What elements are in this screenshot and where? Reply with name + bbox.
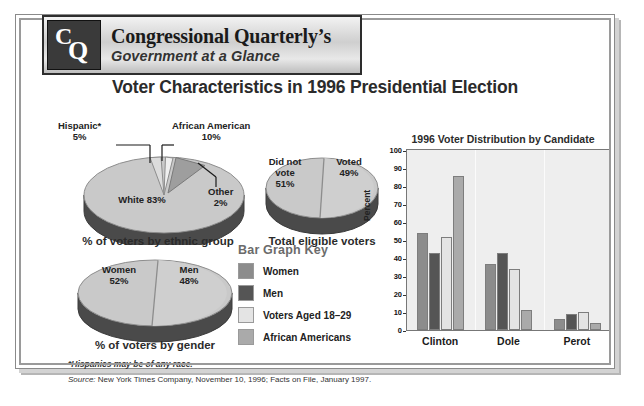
pie-label-hispanic: Hispanic* 5%: [58, 121, 101, 143]
y-tickmark-0: [403, 331, 406, 332]
footnote-source-text: New York Times Company, November 10, 199…: [96, 375, 372, 384]
y-tick-20: 20: [376, 290, 402, 299]
y-tick-60: 60: [376, 218, 402, 227]
key-swatch-men: [238, 285, 254, 301]
pie-label-voted-value: 49%: [339, 167, 358, 178]
key-label-voters-18-29: Voters Aged 18–29: [263, 310, 351, 321]
pie-label-did-not-vote-l1: Did not: [269, 156, 302, 167]
pie-label-did-not-vote-l2: vote: [275, 167, 295, 178]
pie-label-men-value: 48%: [179, 275, 198, 286]
y-tick-100: 100: [376, 146, 402, 155]
y-tick-30: 30: [376, 272, 402, 281]
bar-graph-key: Bar Graph Key Women Men Voters Aged 18–2…: [238, 243, 351, 350]
pie-label-african-american-value: 10%: [202, 131, 221, 142]
pie-label-women-value: 52%: [109, 275, 128, 286]
bar-perot-women: [554, 319, 565, 330]
y-tick-50: 50: [376, 236, 402, 245]
pie-label-women-l1: Women: [102, 264, 136, 275]
masthead-title: Congressional Quarterly’s: [111, 26, 331, 47]
bar-dole-african-americans: [521, 310, 532, 330]
masthead: C Q Congressional Quarterly’s Government…: [42, 15, 362, 75]
pie-label-hispanic-name: Hispanic*: [58, 120, 101, 131]
y-tick-0: 0: [376, 326, 402, 335]
pie-ethnic-svg: [64, 133, 264, 245]
pie-label-other-value: 2%: [214, 197, 228, 208]
bar-clinton-men: [429, 253, 440, 330]
bar-graph-key-title: Bar Graph Key: [238, 243, 351, 257]
bar-group-clinton: [417, 150, 465, 330]
y-tick-80: 80: [376, 182, 402, 191]
key-item-women: Women: [238, 262, 351, 280]
key-item-men: Men: [238, 284, 351, 302]
bar-chart-plot-area: [406, 149, 611, 331]
pie-gender-svg: [68, 243, 243, 351]
x-label-dole: Dole: [474, 335, 542, 347]
bar-chart-title: 1996 Voter Distribution by Candidate: [388, 133, 618, 145]
bar-group-dole: [485, 150, 533, 330]
pie-label-voted-l1: Voted: [336, 156, 362, 167]
footnote-source: Source: New York Times Company, November…: [68, 375, 371, 384]
footnote-asterisk: *Hispanics may be of any race.: [68, 359, 193, 369]
bar-group-perot: [554, 150, 602, 330]
y-tick-90: 90: [376, 164, 402, 173]
pie-caption-gender: % of voters by gender: [62, 339, 248, 351]
pie-label-did-not-vote-value: 51%: [275, 178, 294, 189]
cq-logo-icon: C Q: [47, 20, 101, 70]
key-swatch-women: [238, 263, 254, 279]
bar-perot-men: [566, 314, 577, 330]
bar-dole-voters-aged-18-29: [509, 269, 520, 330]
key-label-men: Men: [263, 288, 283, 299]
pie-chart-eligible: Did not vote 51% Voted 49% Total eligibl…: [258, 133, 386, 243]
grid-line-0: [475, 150, 476, 330]
bar-clinton-african-americans: [453, 176, 464, 330]
key-item-african-americans: African Americans: [238, 328, 351, 346]
poster-frame: C Q Congressional Quarterly’s Government…: [15, 14, 615, 369]
pie-chart-gender: Women 52% Men 48% % of voters by gender: [68, 243, 243, 348]
pie-label-men: Men 48%: [168, 265, 210, 287]
page-title: Voter Characteristics in 1996 Presidenti…: [16, 77, 614, 98]
y-tick-70: 70: [376, 200, 402, 209]
y-tick-10: 10: [376, 308, 402, 317]
pie-label-did-not-vote: Did not vote 51%: [262, 157, 308, 190]
x-label-perot: Perot: [543, 335, 611, 347]
bar-perot-voters-aged-18-29: [578, 312, 589, 330]
pie-label-voted: Voted 49%: [328, 157, 370, 179]
bar-dole-women: [485, 264, 496, 330]
pie-label-women: Women 52%: [94, 265, 144, 287]
grid-line-1: [544, 150, 545, 330]
pie-chart-ethnic: Hispanic* 5% African American 10% Other …: [64, 133, 264, 243]
bar-perot-african-americans: [590, 323, 601, 330]
pie-label-african-american-name: African American: [172, 120, 250, 131]
key-label-women: Women: [263, 266, 299, 277]
pie-label-african-american: African American 10%: [172, 121, 250, 143]
key-swatch-voters-18-29: [238, 307, 254, 323]
masthead-text: Congressional Quarterly’s Government at …: [111, 26, 331, 64]
bar-chart-y-axis-label: Percent: [362, 190, 372, 221]
bar-dole-men: [497, 253, 508, 330]
key-swatch-african-americans: [238, 329, 254, 345]
footnote-source-label: Source:: [68, 375, 96, 384]
pie-label-other: Other 2%: [208, 187, 233, 209]
key-label-african-americans: African Americans: [263, 332, 351, 343]
x-label-clinton: Clinton: [406, 335, 474, 347]
pie-label-hispanic-value: 5%: [73, 131, 87, 142]
y-tick-40: 40: [376, 254, 402, 263]
pie-label-men-l1: Men: [180, 264, 199, 275]
cq-logo-q: Q: [68, 36, 88, 66]
bar-clinton-voters-aged-18-29: [441, 237, 452, 330]
pie-label-other-name: Other: [208, 186, 233, 197]
pie-label-white: White 83%: [102, 195, 182, 206]
bar-clinton-women: [417, 233, 428, 330]
masthead-subtitle: Government at a Glance: [111, 48, 331, 64]
bar-chart: 1996 Voter Distribution by Candidate Per…: [368, 133, 618, 363]
key-item-voters-18-29: Voters Aged 18–29: [238, 306, 351, 324]
